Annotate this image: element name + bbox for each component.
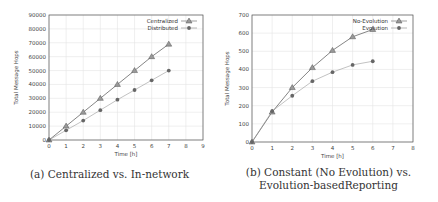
y-tick-label: 600 (239, 30, 250, 36)
y-axis-label: Total Message Hops (13, 50, 20, 105)
circle-marker-icon (250, 140, 254, 144)
x-tick-label: 1 (270, 145, 274, 151)
legend-circle-icon (397, 26, 401, 30)
x-tick-label: 9 (201, 143, 205, 149)
legend-label: Centralized (147, 18, 178, 24)
y-tick-label: 50000 (29, 68, 47, 74)
circle-marker-icon (116, 98, 120, 102)
x-tick-label: 8 (411, 145, 415, 151)
y-tick-label: 200 (239, 103, 250, 109)
legend-circle-icon (187, 26, 191, 30)
x-tick-label: 7 (167, 143, 171, 149)
legend-label: No-Evolution (353, 18, 389, 24)
y-tick-label: 100 (239, 121, 250, 127)
x-axis-label: Time [h] (320, 153, 344, 159)
y-tick-label: 400 (239, 66, 250, 72)
x-tick-label: 5 (133, 143, 137, 149)
x-axis-label: Time [h] (114, 151, 138, 157)
circle-marker-icon (98, 108, 102, 112)
circle-marker-icon (64, 128, 68, 132)
circle-marker-icon (371, 59, 375, 63)
circle-marker-icon (351, 63, 355, 67)
x-tick-label: 2 (291, 145, 295, 151)
caption-b-line1: (b) Constant (No Evolution) vs. (219, 166, 438, 179)
x-tick-label: 4 (331, 145, 335, 151)
x-tick-label: 3 (311, 145, 315, 151)
circle-marker-icon (331, 70, 335, 74)
x-tick-label: 5 (351, 145, 355, 151)
legend-triangle-icon (186, 18, 192, 23)
triangle-marker-icon (166, 41, 172, 46)
x-tick-label: 7 (391, 145, 395, 151)
circle-marker-icon (47, 138, 51, 142)
y-tick-label: 500 (239, 48, 250, 54)
y-axis-label: Total Message Hops (224, 51, 231, 106)
x-tick-label: 0 (250, 145, 254, 151)
y-tick-label: 700 (239, 12, 250, 18)
circle-marker-icon (133, 88, 137, 92)
x-tick-label: 6 (150, 143, 154, 149)
triangle-marker-icon (149, 54, 155, 59)
triangle-marker-icon (330, 47, 336, 52)
circle-marker-icon (81, 119, 85, 123)
chart-a-centralized-vs-in-network: 0123456789010000200003000040000500006000… (0, 0, 219, 160)
x-tick-label: 2 (81, 143, 85, 149)
x-tick-label: 8 (184, 143, 188, 149)
y-tick-label: 70000 (29, 40, 47, 46)
circle-marker-icon (167, 69, 171, 73)
legend-triangle-icon (396, 18, 402, 23)
y-tick-label: 30000 (29, 95, 47, 101)
x-tick-label: 6 (371, 145, 375, 151)
legend-label: Evolution (362, 25, 388, 31)
circle-marker-icon (290, 94, 294, 98)
y-tick-label: 80000 (29, 26, 47, 32)
y-tick-label: 90000 (29, 12, 47, 18)
x-tick-label: 4 (116, 143, 120, 149)
y-tick-label: 300 (239, 85, 250, 91)
circle-marker-icon (150, 78, 154, 82)
x-tick-label: 1 (64, 143, 68, 149)
chart-b-constant-vs-evolution: 0123456780100200300400500600700Time [h]T… (219, 0, 438, 160)
x-tick-label: 3 (99, 143, 103, 149)
caption-a: (a) Centralized vs. In-network (0, 168, 219, 181)
y-tick-label: 60000 (29, 54, 47, 60)
y-tick-label: 20000 (29, 109, 47, 115)
legend-label: Distributed (147, 25, 178, 31)
circle-marker-icon (310, 79, 314, 83)
y-tick-label: 10000 (29, 123, 47, 129)
x-tick-label: 0 (47, 143, 51, 149)
caption-b: (b) Constant (No Evolution) vs. Evolutio… (219, 166, 438, 192)
caption-b-line2: Evolution-basedReporting (219, 179, 438, 192)
circle-marker-icon (270, 109, 274, 113)
y-tick-label: 40000 (29, 81, 47, 87)
